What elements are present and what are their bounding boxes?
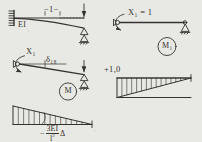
pin-support-icon — [114, 19, 120, 25]
formula-factor: Δ — [60, 130, 65, 138]
pin-support-icon — [80, 75, 87, 81]
pin-support-icon — [13, 61, 19, 67]
roller-support-icon — [79, 35, 89, 44]
diagram-tag-m: M — [65, 87, 72, 95]
stiffness-label: EI — [18, 21, 26, 29]
pin-support-icon — [80, 29, 87, 35]
formula-denominator: l2 — [49, 134, 56, 142]
unit-force-label: X₁ = 1 — [128, 8, 152, 17]
displacement-label: δ₁₈ — [46, 55, 57, 64]
moment-formula: − 3EI l2 Δ — [40, 125, 65, 142]
fixed-support-icon — [9, 11, 14, 26]
unit-moment-ordinate-label: +1,0 — [104, 65, 121, 74]
figure-canvas: −1− EI X₁ = 1 M₁ X₁ δ₁₈ M +1,0 − 3EI l2 … — [0, 0, 202, 142]
figure-drawing — [0, 0, 202, 142]
roller-support-icon — [79, 81, 89, 90]
redundant-label: X₁ — [26, 47, 36, 56]
roller-support-icon — [180, 32, 190, 34]
formula-numerator: 3EI — [46, 125, 60, 133]
diagram-tag-m1: M₁ — [162, 42, 173, 50]
moment-diagram-m1 — [117, 75, 191, 98]
formula-sign: − — [40, 130, 45, 138]
span-dimension-label: −1− — [44, 5, 59, 14]
